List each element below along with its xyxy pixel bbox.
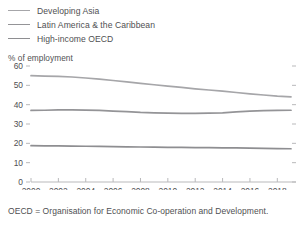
legend-line-swatch-2 xyxy=(8,38,30,39)
y-tick-label: 30 xyxy=(14,119,24,129)
y-axis-tick-labels: 0102030405060 xyxy=(14,61,24,187)
x-tick-label: 2012 xyxy=(186,186,205,190)
x-tick-label: 2006 xyxy=(104,186,123,190)
legend-label-1: Latin America & the Caribbean xyxy=(37,20,155,30)
y-tick-label: 20 xyxy=(14,138,24,148)
legend-label-2: High-income OECD xyxy=(37,34,113,44)
legend-label-0: Developing Asia xyxy=(37,6,99,16)
series-line xyxy=(31,110,291,113)
x-axis-tick-labels: 2000200220042006200820102012201420162018 xyxy=(22,186,287,190)
chart-legend: Developing Asia Latin America & the Cari… xyxy=(8,4,298,46)
y-axis-ticks xyxy=(26,66,30,182)
x-tick-label: 2010 xyxy=(159,186,178,190)
y-tick-label: 10 xyxy=(14,158,24,168)
legend-item-developing-asia: Developing Asia xyxy=(8,4,298,17)
x-tick-label: 2014 xyxy=(213,186,232,190)
data-series-lines xyxy=(31,76,291,149)
line-chart-plot: 0102030405060 20002002200420062008201020… xyxy=(0,60,305,190)
x-tick-label: 2016 xyxy=(241,186,260,190)
x-tick-label: 2004 xyxy=(76,186,95,190)
x-tick-label: 2002 xyxy=(49,186,68,190)
legend-item-high-income-oecd: High-income OECD xyxy=(8,32,298,45)
legend-item-latin-america-caribbean: Latin America & the Caribbean xyxy=(8,18,298,31)
x-tick-label: 2000 xyxy=(22,186,41,190)
series-line xyxy=(31,76,291,97)
legend-line-swatch-1 xyxy=(8,24,30,25)
y-tick-label: 40 xyxy=(14,100,24,110)
y-tick-label: 50 xyxy=(14,80,24,90)
series-line xyxy=(31,146,291,149)
x-tick-label: 2018 xyxy=(268,186,287,190)
chart-figure: Developing Asia Latin America & the Cari… xyxy=(0,0,305,226)
x-tick-label: 2008 xyxy=(131,186,150,190)
y-tick-label: 60 xyxy=(14,61,24,71)
x-axis-ticks xyxy=(31,178,277,182)
chart-footnote: OECD = Organisation for Economic Co-oper… xyxy=(8,206,268,216)
legend-line-swatch-0 xyxy=(8,10,30,11)
y-axis-ticks-right xyxy=(292,66,296,182)
